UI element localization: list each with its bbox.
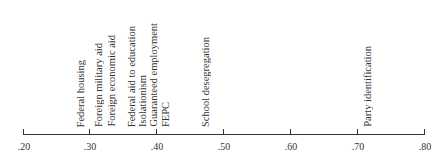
x-tick-label: .40 (151, 141, 164, 152)
x-tick-label: .30 (84, 141, 97, 152)
x-tick (424, 129, 425, 135)
point-label: School desegregation (200, 37, 211, 127)
x-tick-label: .50 (218, 141, 231, 152)
point-label: Federal aid to education (126, 26, 137, 127)
x-tick (156, 129, 157, 135)
point-label: FEPC (160, 102, 171, 127)
point-label: Federal housing (75, 60, 86, 127)
point-label: Party identification (362, 46, 373, 127)
point-label: Foreign economic aid (106, 35, 117, 127)
x-tick-label: .20 (18, 141, 31, 152)
x-tick (290, 129, 291, 135)
x-tick-label: .80 (419, 141, 432, 152)
x-tick-label: .60 (285, 141, 298, 152)
x-tick (357, 129, 358, 135)
x-axis-line (23, 134, 425, 135)
x-tick (89, 129, 90, 135)
point-label: Guaranteed employment (148, 23, 159, 127)
x-tick-label: .70 (352, 141, 365, 152)
x-tick (23, 129, 24, 135)
point-label: Isolationism (137, 75, 148, 127)
point-label: Foreign military aid (93, 43, 104, 127)
x-tick (223, 129, 224, 135)
number-line-chart: .20 .30 .40 .50 .60 .70 .80 Federal hous… (0, 0, 448, 160)
